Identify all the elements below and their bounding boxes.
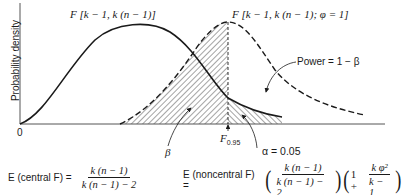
alpha-label-text: α = 0.05 [262,145,300,157]
factor-numerator: k φ² [369,162,389,175]
beta-label: β [165,147,170,158]
central-formula-lhs: E (central F) = [8,172,72,183]
critical-value-label: F0.95 [220,133,240,146]
central-formula-denominator: k (n − 1) − 2 [80,178,139,190]
y-axis-label: Probability density [10,16,21,106]
noncentral-formula-lhs: E (noncentral F) = [183,169,261,191]
noncentral-formula-denominator: k (n − 1) − 2 [275,175,332,195]
right-paren-2: ) [396,167,402,193]
noncentral-factor-fraction: k φ² k − 1 [367,162,392,195]
factor-prefix: 1 + [351,168,365,192]
beta-region [120,22,228,124]
left-paren: ( [265,167,271,193]
left-paren-2: ( [343,167,349,193]
critical-value-subscript: 0.95 [227,139,241,146]
origin-label: 0 [17,128,23,138]
noncentral-expectation-formula: E (noncentral F) = ( k (n − 1) k (n − 1)… [183,162,403,195]
central-expectation-formula: E (central F) = k (n − 1) k (n − 1) − 2 [8,165,140,190]
right-paren: ) [335,167,341,193]
central-curve-label: F [k − 1, k (n − 1)] [70,9,156,20]
factor-denominator: k − 1 [367,175,392,195]
noncentral-formula-numerator: k (n − 1) [282,162,323,175]
alpha-label: α = 0.05 [262,146,300,157]
power-label: Power = 1 − β [297,57,359,67]
central-formula-numerator: k (n − 1) [88,165,129,178]
central-formula-fraction: k (n − 1) k (n − 1) − 2 [80,165,139,190]
critical-value-symbol: F [220,132,227,144]
noncentral-formula-fraction: k (n − 1) k (n − 1) − 2 [275,162,332,195]
noncentral-curve-label: F [k − 1, k (n − 1); φ = 1] [232,9,349,20]
f-distribution-diagram: Probability density 0 F [k − 1, k (n − 1… [0,0,403,195]
